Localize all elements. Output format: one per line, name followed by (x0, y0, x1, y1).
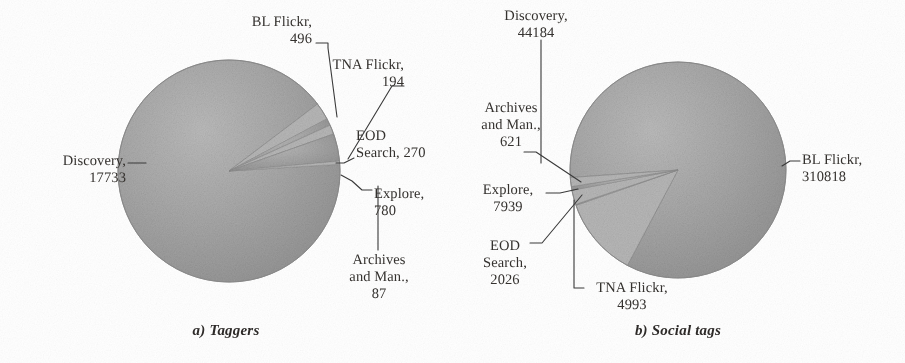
callout-label-discovery: Discovery, 44184 (472, 8, 600, 42)
callout-label-discovery: Discovery, 17733 (18, 153, 126, 187)
callout-label-tna-flickr: TNA Flickr, 194 (232, 57, 404, 91)
callout-label-tna-flickr: TNA Flickr, 4993 (570, 280, 694, 314)
callout-label-explore: Explore, 780 (374, 186, 452, 220)
callout-label-bl-flickr: BL Flickr, 310818 (802, 152, 905, 186)
callout-label-eod-search: EOD Search, 270 (356, 128, 452, 162)
leader-line-explore (341, 175, 372, 190)
callout-label-bl-flickr: BL Flickr, 496 (152, 14, 312, 48)
callout-label-archives: Archives and Man., 87 (330, 252, 428, 303)
figure-pie-charts: Discovery, 17733BL Flickr, 496TNA Flickr… (0, 0, 905, 363)
chart-panel-taggers: Discovery, 17733BL Flickr, 496TNA Flickr… (0, 0, 452, 363)
caption-social-tags: b) Social tags (452, 322, 904, 339)
caption-taggers: a) Taggers (0, 322, 452, 339)
callout-label-explore: Explore, 7939 (452, 182, 564, 216)
chart-panel-social-tags: Discovery, 44184Archives and Man., 621Ex… (452, 0, 904, 363)
callout-label-eod-search: EOD Search, 2026 (454, 238, 556, 289)
callout-label-archives: Archives and Man., 621 (452, 100, 570, 151)
